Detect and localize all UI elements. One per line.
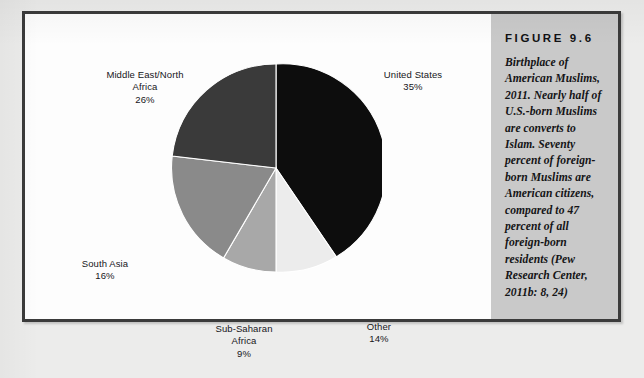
chart-area: Middle East/North Africa 26% United Stat… [25, 14, 491, 319]
pie-label-south-asia-name: South Asia [82, 258, 128, 269]
pie-label-middle-east-north-africa: Middle East/North Africa 26% [77, 56, 213, 119]
pie-label-sub-saharan-africa: Sub-Saharan Africa 9% [185, 310, 303, 373]
pie-label-united-states: United States 35% [357, 56, 469, 106]
pie-label-sub-saharan-africa-name: Sub-Saharan Africa [215, 323, 272, 347]
pie-label-other: Other 14% [331, 308, 427, 358]
page-background: Middle East/North Africa 26% United Stat… [0, 0, 644, 378]
pie-label-sub-saharan-africa-value: 9% [185, 348, 303, 361]
figure-frame: Middle East/North Africa 26% United Stat… [22, 11, 621, 322]
pie-label-south-asia: South Asia 16% [43, 245, 167, 295]
pie-label-united-states-name: United States [384, 69, 442, 80]
pie-label-middle-east-north-africa-name: Middle East/North Africa [106, 69, 183, 93]
pie-label-other-value: 14% [331, 333, 427, 346]
pie-label-other-name: Other [367, 321, 391, 332]
figure-number-label: FIGURE 9.6 [505, 32, 606, 44]
figure-caption-text: Birthplace of American Muslims, 2011. Ne… [505, 55, 606, 301]
pie-label-united-states-value: 35% [357, 81, 469, 94]
pie-label-middle-east-north-africa-value: 26% [77, 94, 213, 107]
pie-label-south-asia-value: 16% [43, 270, 167, 283]
figure-caption-panel: FIGURE 9.6 Birthplace of American Muslim… [491, 14, 618, 319]
